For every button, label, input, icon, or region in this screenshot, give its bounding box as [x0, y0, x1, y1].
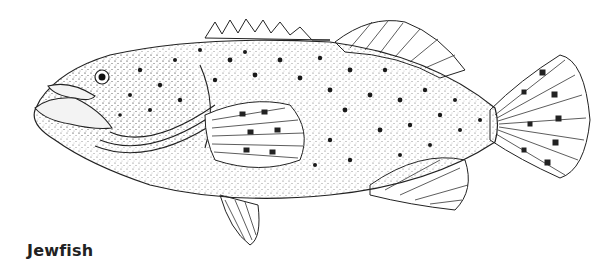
- pelvic-fin: [220, 195, 259, 245]
- figure-caption: Jewfish: [27, 241, 93, 260]
- tail-fin: [490, 55, 590, 178]
- pectoral-fin: [205, 102, 304, 168]
- eye: [95, 70, 109, 84]
- fish-illustration: [0, 0, 613, 268]
- dorsal-fin: [205, 19, 330, 40]
